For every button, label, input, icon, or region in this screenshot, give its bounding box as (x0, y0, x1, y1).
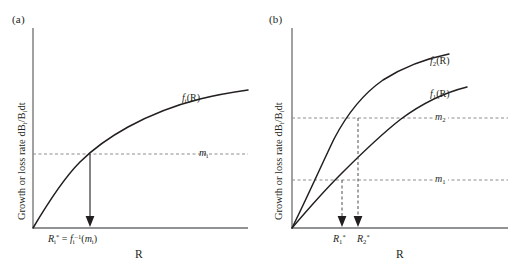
panel-a-eq-paren-close: ) (94, 233, 97, 244)
panel-b-m1-label: m1 (433, 173, 448, 185)
panel-a-mortality-label: mi (199, 147, 208, 159)
panel-b-curve-f1 (292, 87, 467, 228)
panel-a: (a) Growth or loss rate dBi/Bidt fi(R) m… (0, 0, 259, 269)
panel-a-curve-label-arg: (R) (187, 92, 200, 103)
panel-b-r1-arrowhead (338, 216, 347, 227)
panel-b-r1-label-star: * (342, 233, 345, 240)
panel-a-mortality-label-sub: i (206, 152, 208, 159)
panel-a-x-axis-label: R (135, 248, 143, 260)
panel-b: (b) Growth or loss rate dBi/Bidt f2(R) f (259, 0, 518, 269)
panel-b-r1-label: R1* (333, 233, 346, 245)
panel-b-curve1-label: f1(R) (430, 88, 449, 100)
panel-a-eq-equals: = (59, 233, 70, 244)
panel-b-curve1-label-arg: (R) (436, 88, 449, 99)
panel-a-plot (0, 0, 259, 269)
panel-b-r2-label-star: * (366, 233, 369, 240)
panel-b-r2-label: R2* (357, 233, 370, 245)
panel-a-curve-label: fi(R) (182, 92, 200, 104)
panel-a-rstar-equation: Ri* = fi–1(mi) (48, 233, 97, 245)
panel-b-m1-label-sub: 1 (442, 178, 445, 185)
panel-b-plot (259, 0, 518, 269)
panel-b-m2-label: m2 (433, 111, 448, 123)
panel-a-curve-fi (33, 90, 248, 228)
panel-b-r2-arrowhead (354, 216, 363, 227)
panel-b-m2-label-sub: 2 (442, 116, 445, 123)
panel-b-x-axis-label: R (396, 248, 404, 260)
panel-b-curve2-label-arg: (R) (436, 55, 449, 66)
panel-a-eq-rhs-m: m (85, 233, 92, 244)
panel-b-curve2-label: f2(R) (430, 55, 449, 67)
panel-a-rstar-arrowhead (86, 216, 95, 227)
figure-root: (a) Growth or loss rate dBi/Bidt fi(R) m… (0, 0, 518, 269)
